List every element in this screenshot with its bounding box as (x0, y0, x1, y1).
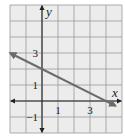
y-tick-label: −1 (26, 111, 38, 123)
y-tick-label: 3 (33, 47, 39, 59)
chart: 1331−1 x y (0, 0, 125, 138)
y-axis-label: y (44, 4, 52, 19)
y-tick-label: 1 (33, 79, 39, 91)
x-tick-label: 3 (87, 104, 93, 116)
x-axis-label: x (111, 85, 118, 100)
x-tick-label: 1 (55, 104, 61, 116)
